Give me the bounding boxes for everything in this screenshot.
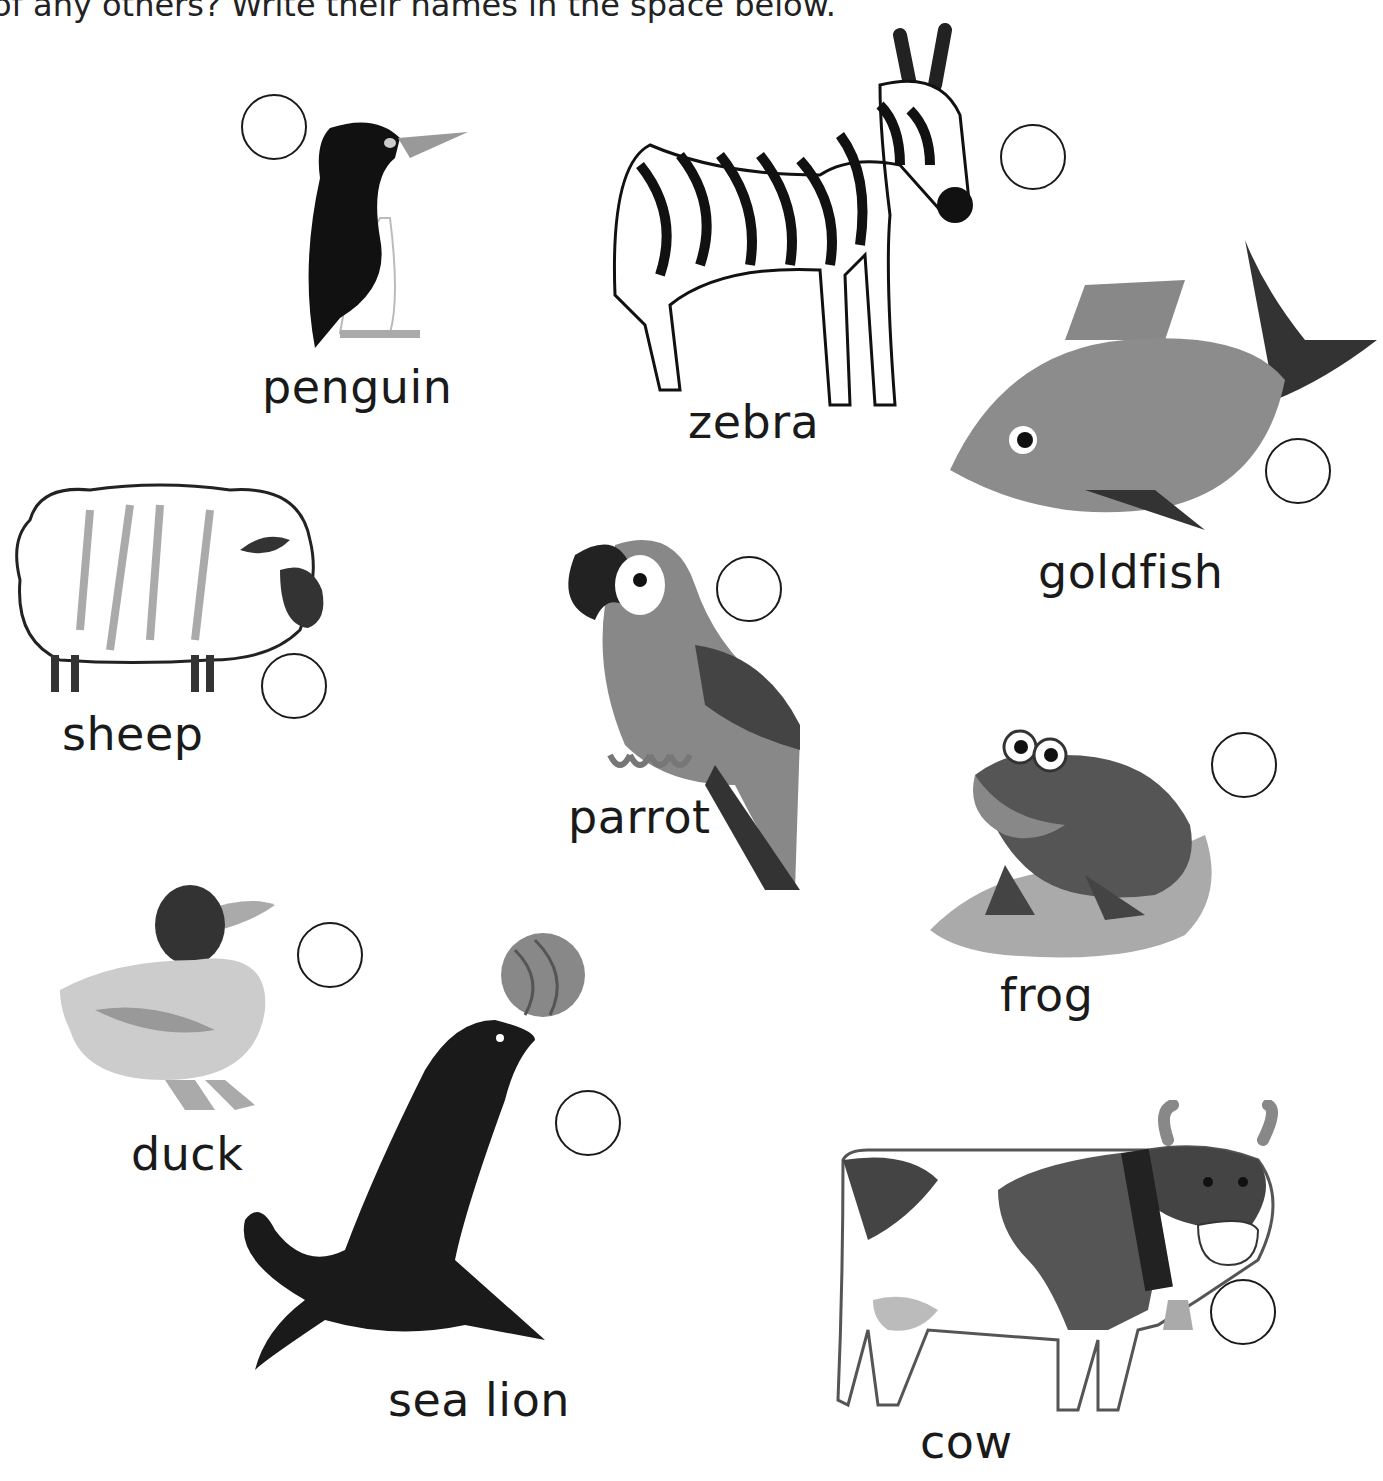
cow-label: cow [920, 1415, 1013, 1469]
frog-answer-circle[interactable] [1211, 732, 1277, 798]
penguin-label: penguin [262, 360, 452, 414]
penguin-illustration [280, 118, 480, 358]
zebra-label: zebra [688, 395, 819, 449]
goldfish-answer-circle[interactable] [1265, 438, 1331, 504]
sea-lion-label: sea lion [388, 1373, 570, 1427]
sea-lion-answer-circle[interactable] [555, 1090, 621, 1156]
parrot-label: parrot [568, 790, 711, 844]
zebra-illustration [600, 15, 980, 415]
parrot-answer-circle[interactable] [716, 556, 782, 622]
cow-answer-circle[interactable] [1210, 1279, 1276, 1345]
sheep-answer-circle[interactable] [261, 653, 327, 719]
frog-illustration [925, 725, 1215, 970]
zebra-answer-circle[interactable] [1000, 124, 1066, 190]
goldfish-label: goldfish [1038, 545, 1223, 599]
cow-illustration [828, 1100, 1298, 1420]
sea-lion-illustration [225, 930, 585, 1380]
sheep-label: sheep [62, 707, 203, 761]
frog-label: frog [1000, 968, 1093, 1022]
